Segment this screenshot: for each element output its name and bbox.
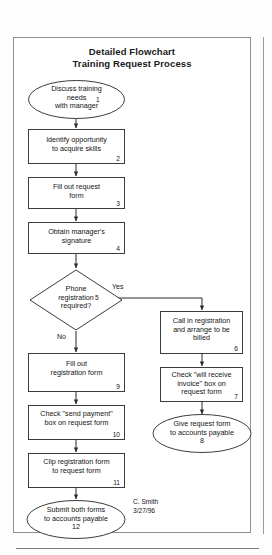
node-3-number: 3 — [116, 200, 120, 207]
node-1-line-3: with manager — [28, 102, 125, 111]
node-2-identify-opportunity[interactable]: Identify opportunity to acquire skills 2 — [28, 129, 125, 164]
node-10-line-2: box on request form — [29, 419, 124, 428]
node-4-line-2: signature — [29, 237, 124, 246]
node-2-line-2: to acquire skills — [29, 145, 124, 154]
node-2-label: Identify opportunity to acquire skills — [29, 136, 124, 153]
document-date: 3/27/96 — [133, 506, 158, 515]
node-11-label: Clip registration form to request form — [29, 458, 124, 475]
edge-label-no: No — [57, 333, 66, 340]
node-1-discuss-training[interactable]: Discuss training needs with manager 1 — [28, 80, 125, 119]
node-12-label: Submit both forms to accounts payable 12 — [26, 506, 126, 532]
node-4-number: 4 — [116, 245, 120, 252]
node-5-phone-registration-required[interactable]: Phone registration required? 5 — [29, 269, 123, 331]
node-6-label: Call in registration and arrange to be b… — [161, 317, 242, 343]
node-3-line-2: form — [29, 192, 124, 201]
node-11-clip-registration-form[interactable]: Clip registration form to request form 1… — [28, 453, 125, 488]
node-11-number: 11 — [113, 479, 120, 486]
node-7-line-3: request form — [161, 388, 242, 397]
node-5-label: Phone registration required? — [29, 285, 123, 311]
node-3-fill-out-request-form[interactable]: Fill out request form 3 — [28, 177, 125, 209]
node-5-number: 5 — [95, 294, 99, 301]
node-9-label: Fill out registration form — [29, 360, 124, 377]
node-8-number: 8 — [152, 437, 252, 446]
node-1-label: Discuss training needs with manager — [28, 85, 125, 111]
node-9-line-2: registration form — [29, 369, 124, 378]
node-8-label: Give request form to accounts payable 8 — [152, 420, 252, 446]
node-2-number: 2 — [116, 155, 120, 162]
node-7-number: 7 — [234, 393, 238, 400]
node-9-fill-out-registration-form[interactable]: Fill out registration form 9 — [28, 353, 125, 392]
node-7-check-will-receive-invoice[interactable]: Check "will receive invoice" box on requ… — [160, 367, 243, 402]
node-12-submit-both-forms[interactable]: Submit both forms to accounts payable 12 — [26, 500, 126, 539]
node-3-label: Fill out request form — [29, 183, 124, 200]
node-12-number: 12 — [26, 523, 126, 532]
document-page: Detailed Flowchart Training Request Proc… — [0, 0, 272, 555]
node-10-label: Check "send payment" box on request form — [29, 410, 124, 427]
node-5-line-3: required? — [29, 302, 123, 311]
node-4-obtain-manager-signature[interactable]: Obtain manager's signature 4 — [28, 222, 125, 254]
edge-label-yes: Yes — [112, 283, 123, 290]
node-10-check-send-payment[interactable]: Check "send payment" box on request form… — [28, 405, 125, 440]
connector-5-6-yes — [110, 298, 202, 310]
node-9-number: 9 — [116, 383, 120, 390]
node-6-number: 6 — [234, 345, 238, 352]
author-name: C. Smith — [133, 497, 158, 506]
node-10-number: 10 — [113, 431, 120, 438]
node-11-line-2: to request form — [29, 467, 124, 476]
node-6-call-in-registration[interactable]: Call in registration and arrange to be b… — [160, 311, 243, 354]
signature-block: C. Smith 3/27/96 — [133, 497, 158, 515]
node-7-label: Check "will receive invoice" box on requ… — [161, 371, 242, 397]
node-4-label: Obtain manager's signature — [29, 228, 124, 245]
node-6-line-3: billed — [161, 334, 242, 343]
node-1-number: 1 — [96, 96, 100, 103]
node-8-give-request-form[interactable]: Give request form to accounts payable 8 — [152, 414, 252, 453]
